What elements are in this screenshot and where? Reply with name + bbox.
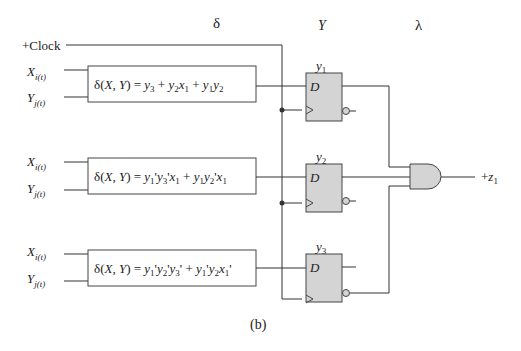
junction-dot — [280, 201, 285, 206]
svg-text:Yj(t): Yj(t) — [27, 90, 45, 108]
svg-text:y3: y3 — [314, 239, 327, 256]
delta-block-2: Xi(t) Yj(t) δ(X, Y) = y1'y3'x1 + y1y2'x1 — [26, 154, 306, 199]
and-input-wires — [342, 86, 410, 293]
clock-label: +Clock — [22, 38, 61, 53]
junction-dot — [280, 108, 285, 113]
svg-text:D: D — [309, 170, 320, 185]
svg-text:D: D — [309, 79, 320, 94]
header-lambda: λ — [415, 17, 423, 33]
svg-text:Xi(t): Xi(t) — [26, 154, 46, 172]
caption: (b) — [250, 317, 267, 333]
svg-text:δ(X, Y) = y3 + y2x1 + y1y2: δ(X, Y) = y3 + y2x1 + y1y2 — [94, 77, 223, 94]
flipflop-y2: y2 D — [306, 149, 356, 212]
circuit-diagram: δ Y λ +Clock Xi(t) Yj(t) δ(X, Y) = y3 + … — [0, 0, 521, 351]
delta-block-3: Xi(t) Yj(t) δ(X, Y) = y1'y2'y3' + y1'y2x… — [26, 244, 306, 289]
svg-text:Xi(t): Xi(t) — [26, 64, 46, 82]
svg-text:Yj(t): Yj(t) — [27, 271, 45, 289]
svg-text:Xi(t): Xi(t) — [26, 244, 46, 262]
output-label: +z1 — [481, 169, 498, 186]
and-gate — [410, 164, 441, 189]
svg-text:δ(X, Y) = y1'y3'x1 + y1y2'x1: δ(X, Y) = y1'y3'x1 + y1y2'x1 — [94, 169, 227, 186]
delta-block-1: Xi(t) Yj(t) δ(X, Y) = y3 + y2x1 + y1y2 — [26, 64, 306, 108]
svg-text:y1: y1 — [314, 58, 326, 75]
flipflop-y1: y1 D — [306, 58, 356, 121]
header-y: Y — [318, 18, 328, 33]
header-delta: δ — [213, 15, 220, 31]
flipflop-y3: y3 D — [306, 239, 356, 303]
svg-text:Yj(t): Yj(t) — [27, 181, 45, 199]
svg-text:D: D — [309, 260, 320, 275]
svg-text:y2: y2 — [314, 149, 326, 166]
